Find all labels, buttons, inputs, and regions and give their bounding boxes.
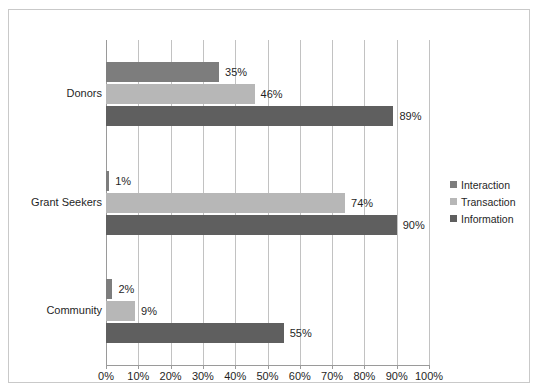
axis-tick: [235, 365, 236, 369]
bar-value-label: 35%: [225, 62, 247, 82]
xtick-label-100: 100%: [415, 370, 443, 382]
legend-item-information[interactable]: Information: [450, 210, 526, 227]
chart-legend: InteractionTransactionInformation: [450, 176, 526, 227]
legend-item-interaction[interactable]: Interaction: [450, 176, 526, 193]
bar-grant-seekers-transaction: [106, 193, 345, 213]
axis-tick: [397, 365, 398, 369]
axis-tick: [300, 365, 301, 369]
gridline-90: [397, 40, 398, 365]
bar-donors-information: [106, 106, 393, 126]
xtick-label-70: 70%: [321, 370, 343, 382]
legend-item-transaction[interactable]: Transaction: [450, 193, 526, 210]
xtick-label-20: 20%: [160, 370, 182, 382]
bar-value-label: 9%: [141, 301, 157, 321]
axis-tick: [138, 365, 139, 369]
legend-swatch-transaction-icon: [450, 198, 457, 205]
legend-swatch-interaction-icon: [450, 181, 457, 188]
x-axis-tick-labels: 0%10%20%30%40%50%60%70%80%90%100%: [9, 370, 530, 383]
category-label-community: Community: [10, 304, 102, 316]
category-label-donors: Donors: [10, 87, 102, 99]
bar-value-label: 46%: [261, 84, 283, 104]
bar-community-transaction: [106, 301, 135, 321]
axis-tick: [171, 365, 172, 369]
category-axis-labels: DonorsGrant SeekersCommunity: [9, 40, 102, 365]
axis-tick: [268, 365, 269, 369]
xtick-label-90: 90%: [386, 370, 408, 382]
gridline-100: [429, 40, 430, 365]
axis-tick: [332, 365, 333, 369]
xtick-label-40: 40%: [224, 370, 246, 382]
bar-community-information: [106, 323, 284, 343]
axis-tick: [364, 365, 365, 369]
bar-value-label: 2%: [118, 279, 134, 299]
chart-container: 35%46%89%1%74%90%2%9%55% DonorsGrant See…: [8, 9, 530, 383]
bar-value-label: 1%: [115, 171, 131, 191]
plot-area: 35%46%89%1%74%90%2%9%55%: [106, 40, 429, 365]
xtick-label-30: 30%: [192, 370, 214, 382]
xtick-label-80: 80%: [353, 370, 375, 382]
xtick-label-0: 0%: [98, 370, 114, 382]
bar-community-interaction: [106, 279, 112, 299]
category-label-grant-seekers: Grant Seekers: [10, 196, 102, 208]
axis-tick: [203, 365, 204, 369]
bar-value-label: 55%: [290, 323, 312, 343]
legend-swatch-information-icon: [450, 215, 457, 222]
xtick-label-60: 60%: [289, 370, 311, 382]
bar-donors-transaction: [106, 84, 255, 104]
legend-label: Interaction: [461, 179, 510, 191]
bar-grant-seekers-interaction: [106, 171, 109, 191]
legend-label: Transaction: [461, 196, 515, 208]
bar-grant-seekers-information: [106, 215, 397, 235]
bar-donors-interaction: [106, 62, 219, 82]
bar-value-label: 74%: [351, 193, 373, 213]
xtick-label-10: 10%: [127, 370, 149, 382]
xtick-label-50: 50%: [256, 370, 278, 382]
legend-label: Information: [461, 213, 514, 225]
axis-tick: [429, 365, 430, 369]
bar-value-label: 89%: [399, 106, 421, 126]
axis-tick: [106, 365, 107, 369]
bar-value-label: 90%: [403, 215, 425, 235]
